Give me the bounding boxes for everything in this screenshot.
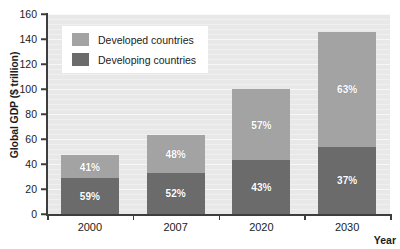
bar-label-developed: 48% bbox=[147, 149, 205, 160]
bar-label-developed: 57% bbox=[232, 119, 290, 130]
legend-swatch-developed bbox=[72, 33, 89, 46]
grid-band bbox=[47, 24, 390, 25]
legend-item-developed: Developed countries bbox=[72, 33, 196, 46]
x-tick-label: 2000 bbox=[78, 221, 102, 233]
y-tick-label: 140 bbox=[0, 33, 37, 45]
legend-label-developed: Developed countries bbox=[98, 34, 194, 46]
y-tick-label: 160 bbox=[0, 8, 37, 20]
y-tick-mark bbox=[41, 88, 47, 90]
y-tick-mark bbox=[41, 63, 47, 65]
x-tick-label: 2020 bbox=[249, 221, 273, 233]
y-tick-mark bbox=[41, 13, 47, 15]
bar-label-developing: 43% bbox=[232, 182, 290, 193]
bar-segment-developing: 52% bbox=[147, 173, 205, 214]
x-tick-label: 2030 bbox=[335, 221, 359, 233]
bar-group: 41%59% bbox=[61, 155, 119, 214]
y-tick-mark bbox=[41, 188, 47, 190]
bar-segment-developed: 63% bbox=[318, 32, 376, 147]
bar-label-developed: 63% bbox=[318, 84, 376, 95]
x-tick-label: 2007 bbox=[163, 221, 187, 233]
x-axis-title: Year bbox=[374, 234, 396, 246]
y-tick-label: 100 bbox=[0, 83, 37, 95]
bar-segment-developed: 57% bbox=[232, 89, 290, 160]
legend: Developed countries Developing countries bbox=[62, 26, 208, 73]
x-tick-mark bbox=[133, 214, 135, 220]
x-tick-mark bbox=[47, 214, 49, 220]
legend-item-developing: Developing countries bbox=[72, 53, 196, 66]
x-tick-mark bbox=[219, 214, 221, 220]
stacked-bar-chart: Global GDP ($ trillion) 0204060801001201… bbox=[0, 0, 400, 249]
y-tick-label: 60 bbox=[0, 133, 37, 145]
y-tick-label: 80 bbox=[0, 108, 37, 120]
x-tick-mark bbox=[390, 214, 392, 220]
y-tick-mark bbox=[41, 38, 47, 40]
legend-label-developing: Developing countries bbox=[98, 54, 196, 66]
y-tick-mark bbox=[41, 163, 47, 165]
bar-group: 57%43% bbox=[232, 89, 290, 214]
bar-segment-developing: 59% bbox=[61, 178, 119, 214]
y-tick-label: 20 bbox=[0, 183, 37, 195]
y-tick-label: 0 bbox=[0, 208, 37, 220]
bar-segment-developing: 37% bbox=[318, 147, 376, 215]
bar-segment-developed: 48% bbox=[147, 135, 205, 173]
bar-group: 63%37% bbox=[318, 32, 376, 215]
bar-label-developing: 52% bbox=[147, 188, 205, 199]
bar-segment-developed: 41% bbox=[61, 155, 119, 178]
bar-group: 48%52% bbox=[147, 135, 205, 214]
bar-label-developing: 37% bbox=[318, 175, 376, 186]
bar-label-developing: 59% bbox=[61, 190, 119, 201]
y-tick-mark bbox=[41, 138, 47, 140]
x-tick-mark bbox=[304, 214, 306, 220]
grid-band bbox=[47, 19, 390, 20]
y-tick-mark bbox=[41, 113, 47, 115]
bar-segment-developing: 43% bbox=[232, 160, 290, 214]
legend-swatch-developing bbox=[72, 53, 89, 66]
grid-band bbox=[47, 14, 390, 15]
y-tick-label: 40 bbox=[0, 158, 37, 170]
bar-label-developed: 41% bbox=[61, 161, 119, 172]
y-tick-label: 120 bbox=[0, 58, 37, 70]
